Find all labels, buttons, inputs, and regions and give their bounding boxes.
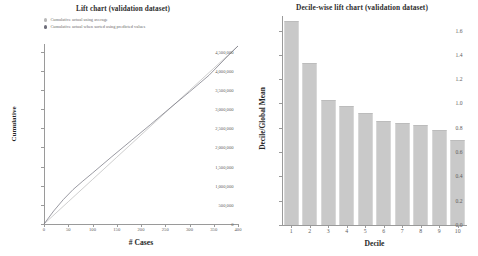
decile-x-tick-label: 4 [345, 228, 348, 234]
legend-item-sorted: Cumulative actual when sorted using pred… [44, 24, 145, 30]
decile-bars [282, 16, 467, 225]
lift-y-tick [41, 128, 44, 129]
chart-page: Lift chart (validation dataset) Cumulati… [0, 0, 478, 256]
lift-y-tick [41, 205, 44, 206]
decile-bar [358, 113, 373, 225]
decile-x-tick-label: 10 [455, 228, 461, 234]
decile-y-tick-label: 1.6 [456, 28, 463, 34]
decile-y-tick [279, 176, 282, 177]
lift-curves [44, 44, 238, 224]
lift-y-tick [41, 52, 44, 53]
decile-x-tick-label: 7 [401, 228, 404, 234]
decile-y-tick [279, 152, 282, 153]
lift-chart-legend: Cumulative actual using average Cumulati… [44, 17, 145, 31]
lift-y-tick-label: 500,000 [219, 202, 234, 207]
lift-y-tick-label: 4,000,000 [215, 68, 233, 73]
lift-x-tick-label: 0 [43, 227, 45, 232]
circle-marker [44, 18, 47, 21]
legend-label-average: Cumulative actual using average [50, 17, 107, 23]
lift-plot-area: 0500,0001,000,0001,500,0002,000,0002,500… [44, 44, 238, 224]
decile-y-tick-label: 1.4 [456, 52, 463, 58]
decile-y-tick [279, 128, 282, 129]
lift-x-axis-title: # Cases [44, 238, 238, 247]
decile-y-tick-label: 0.6 [456, 149, 463, 155]
lift-y-tick [41, 167, 44, 168]
decile-chart-panel: Decile-wise lift chart (validation datas… [246, 0, 478, 256]
lift-y-tick-label: 3,000,000 [215, 107, 233, 112]
decile-x-tick-label: 6 [382, 228, 385, 234]
decile-x-tick-label: 5 [364, 228, 367, 234]
decile-bar [284, 21, 299, 225]
lift-y-tick-label: 1,500,000 [215, 164, 233, 169]
lift-y-tick [41, 71, 44, 72]
decile-y-axis-title: Decile/Global Mean [258, 71, 267, 167]
lift-y-tick-label: 3,500,000 [215, 87, 233, 92]
decile-chart-title: Decile-wise lift chart (validation datas… [246, 3, 478, 12]
decile-y-tick-label: 1.0 [456, 100, 463, 106]
decile-y-tick-label: 0.2 [456, 198, 463, 204]
decile-y-tick [279, 103, 282, 104]
decile-y-tick [279, 79, 282, 80]
decile-y-tick-label: 1.2 [456, 76, 463, 82]
decile-plot-area: 0.00.20.40.60.81.01.21.41.612345678910 [282, 16, 467, 225]
decile-x-tick-label: 9 [438, 228, 441, 234]
lift-x-tick-label: 250 [162, 227, 169, 232]
decile-bar [395, 123, 410, 225]
lift-y-tick-label: 0 [231, 222, 233, 227]
lift-y-tick-label: 2,000,000 [215, 145, 233, 150]
decile-x-tick-label: 1 [290, 228, 293, 234]
decile-y-tick-label: 0.8 [456, 125, 463, 131]
circle-marker [44, 25, 47, 28]
lift-x-tick-label: 400 [235, 227, 242, 232]
decile-x-axis-title: Decile [282, 239, 467, 248]
legend-item-average: Cumulative actual using average [44, 17, 145, 23]
decile-x-tick-label: 8 [419, 228, 422, 234]
lift-x-tick-label: 150 [113, 227, 120, 232]
lift-line-average [44, 46, 238, 224]
decile-x-tick-label: 3 [327, 228, 330, 234]
legend-label-sorted: Cumulative actual when sorted using pred… [50, 24, 145, 30]
lift-x-tick-label: 200 [138, 227, 145, 232]
lift-y-tick-label: 4,500,000 [215, 49, 233, 54]
lift-y-tick-label: 2,500,000 [215, 126, 233, 131]
decile-y-tick [279, 201, 282, 202]
decile-y-tick-label: 0.4 [456, 173, 463, 179]
lift-x-tick-label: 100 [89, 227, 96, 232]
lift-y-tick [41, 186, 44, 187]
lift-chart-panel: Lift chart (validation dataset) Cumulati… [0, 0, 246, 256]
decile-bar [339, 106, 354, 225]
lift-y-tick-label: 1,000,000 [215, 183, 233, 188]
lift-y-tick [41, 109, 44, 110]
decile-y-tick [279, 31, 282, 32]
decile-bar [413, 125, 428, 225]
decile-y-tick [279, 55, 282, 56]
lift-chart-title: Lift chart (validation dataset) [0, 5, 246, 13]
decile-y-tick [279, 225, 282, 226]
decile-x-tick-label: 2 [308, 228, 311, 234]
decile-bar [432, 130, 447, 225]
lift-x-tick-label: 300 [186, 227, 193, 232]
decile-bar [302, 63, 317, 225]
lift-y-tick [41, 147, 44, 148]
lift-x-tick-label: 350 [210, 227, 217, 232]
lift-x-tick-label: 50 [66, 227, 71, 232]
decile-bar [321, 100, 336, 225]
lift-y-axis-title: Cumulative [10, 94, 18, 154]
decile-bar [376, 121, 391, 226]
lift-y-tick [41, 90, 44, 91]
